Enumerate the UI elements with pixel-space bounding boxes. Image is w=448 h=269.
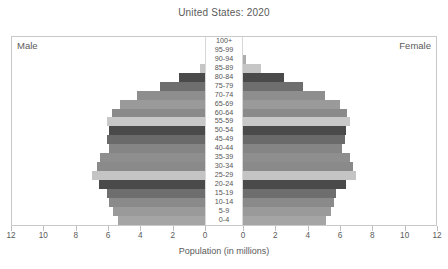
x-axis-tick-label: 4 [305,231,310,240]
x-axis-tick-label: 8 [370,231,375,240]
age-group-axis: 100+95-9990-9485-8980-8475-7970-7465-696… [205,37,243,225]
age-group-label: 0-4 [206,216,242,225]
female-bar [224,162,353,171]
x-axis-tick-label: 2 [273,231,278,240]
x-axis-tick-label: 12 [432,231,441,240]
x-axis-tick-label: 8 [73,231,78,240]
x-axis-tick-label: 10 [400,231,409,240]
female-bar [224,171,356,180]
chart-title: United States: 2020 [0,7,448,18]
population-pyramid-chart: United States: 2020 Male Female 100+95-9… [0,0,448,269]
x-axis-tick-label: 6 [106,231,111,240]
x-axis-tick-label: 2 [170,231,175,240]
x-axis-tick-label: 12 [6,231,15,240]
x-axis-tick-label: 10 [39,231,48,240]
x-axis-tick-label: 0 [203,231,208,240]
x-axis-title: Population (in millions) [0,246,448,256]
x-axis-tick-label: 0 [241,231,246,240]
pyramid-bars: 100+95-9990-9485-8980-8475-7970-7465-696… [12,37,436,225]
x-axis-tick-label: 6 [338,231,343,240]
x-axis-tick-label: 4 [138,231,143,240]
